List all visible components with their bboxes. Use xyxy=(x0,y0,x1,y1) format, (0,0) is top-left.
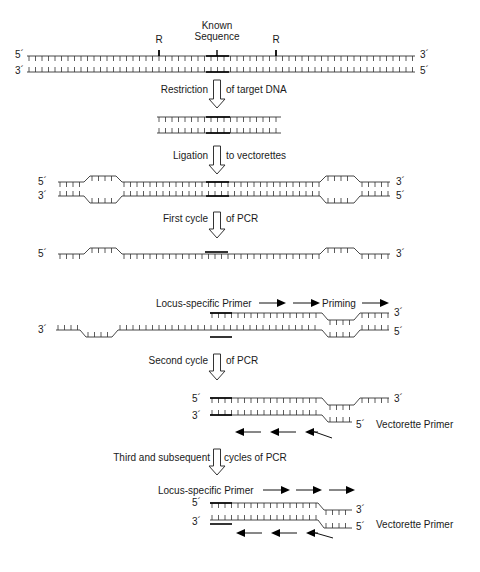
five-prime-label: 5´ xyxy=(356,419,365,430)
primer-arrow-right-icon xyxy=(329,486,355,494)
five-prime-label: 5´ xyxy=(192,393,201,404)
locus-primer-extension-strand xyxy=(210,313,389,325)
down-arrow-icon xyxy=(209,449,225,475)
three-prime-label: 3´ xyxy=(420,49,429,60)
vectorette-primer-pointer xyxy=(312,431,332,438)
three-prime-label: 3´ xyxy=(192,516,201,527)
primer-arrow-right-icon xyxy=(362,299,389,307)
primer-arrow-left-icon xyxy=(236,529,262,537)
template-strand xyxy=(56,325,389,337)
three-prime-label: 3´ xyxy=(38,324,47,335)
three-prime-label: 3´ xyxy=(396,248,405,259)
primer-arrow-right-icon xyxy=(293,299,320,307)
primer-arrow-left-icon xyxy=(235,428,261,436)
priming-label: Priming xyxy=(322,298,356,309)
third-cycle-bottom-strand xyxy=(210,515,352,528)
first-cycle-strand xyxy=(58,248,390,259)
second-cycle-step-detail: of PCR xyxy=(226,355,258,366)
second-cycle-top-strand xyxy=(210,398,389,410)
ligation-step-label: Ligation xyxy=(173,150,208,161)
three-prime-label: 3´ xyxy=(356,504,365,515)
three-prime-label: 3´ xyxy=(394,307,403,318)
three-prime-label: 3´ xyxy=(396,176,405,187)
down-arrow-icon xyxy=(209,354,225,380)
locus-specific-primer-label: Locus-specific Primer xyxy=(156,298,252,309)
vectorette-primer-pointer xyxy=(312,532,333,538)
five-prime-label: 5´ xyxy=(356,521,365,532)
primer-arrow-right-icon xyxy=(296,486,322,494)
three-prime-label: 3´ xyxy=(394,393,403,404)
ligated-bottom-strand xyxy=(58,191,390,203)
locus-specific-primer-label: Locus-specific Primer xyxy=(158,485,254,496)
primer-arrow-left-icon xyxy=(270,428,296,436)
five-prime-label: 5´ xyxy=(192,497,201,508)
five-prime-label: 5´ xyxy=(394,326,403,337)
five-prime-label: 5´ xyxy=(38,176,47,187)
vectorette-primer-label: Vectorette Primer xyxy=(376,519,454,530)
primer-arrow-left-icon xyxy=(271,529,297,537)
down-arrow-icon xyxy=(209,212,225,238)
known-sequence-label-line2: Sequence xyxy=(194,31,239,42)
vectorette-pcr-diagram: Known Sequence R R 5´ 3´ 3´ 5´ Restricti… xyxy=(0,0,480,572)
marks xyxy=(159,50,389,538)
five-prime-label: 5´ xyxy=(15,49,24,60)
first-cycle-step-detail: of PCR xyxy=(226,213,258,224)
five-prime-label: 5´ xyxy=(38,248,47,259)
ligation-step-detail: to vectorettes xyxy=(226,150,286,161)
second-cycle-step-label: Second cycle xyxy=(149,355,209,366)
restriction-step-detail: of target DNA xyxy=(226,84,287,95)
third-cycle-step-label: Third and subsequent xyxy=(113,452,210,463)
known-sequence-label-line1: Known xyxy=(202,20,233,31)
second-cycle-bottom-strand xyxy=(210,410,352,422)
three-prime-label: 3´ xyxy=(192,410,201,421)
restriction-step-label: Restriction xyxy=(161,84,208,95)
down-arrow-icon xyxy=(209,80,225,108)
third-cycle-step-detail: cycles of PCR xyxy=(224,452,287,463)
three-prime-label: 3´ xyxy=(15,65,24,76)
three-prime-label: 3´ xyxy=(38,190,47,201)
down-arrow-icon xyxy=(209,146,225,174)
first-cycle-step-label: First cycle xyxy=(163,213,208,224)
primer-arrow-right-icon xyxy=(263,486,290,494)
restriction-site-right-label: R xyxy=(272,34,279,45)
five-prime-label: 5´ xyxy=(396,190,405,201)
third-cycle-top-strand xyxy=(210,503,352,515)
five-prime-label: 5´ xyxy=(420,65,429,76)
vectorette-primer-label: Vectorette Primer xyxy=(376,419,454,430)
restriction-site-left-label: R xyxy=(155,34,162,45)
primer-arrow-right-icon xyxy=(259,299,286,307)
